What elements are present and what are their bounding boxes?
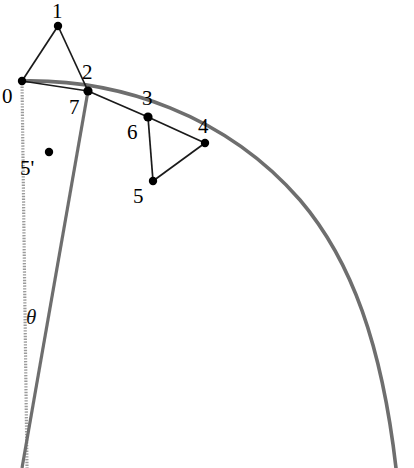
vertex-label-3: 3: [142, 88, 153, 109]
vertex-dot-3[interactable]: [143, 112, 152, 121]
vertex-dot-5[interactable]: [149, 177, 157, 185]
chord-4-5: [153, 143, 205, 181]
chord-0-1: [22, 26, 58, 81]
vertex-dot-1[interactable]: [54, 22, 62, 30]
vertex-label-2: 2: [82, 62, 93, 83]
vertex-dot-2[interactable]: [83, 86, 92, 95]
vertex-dot-5-prime[interactable]: [45, 148, 53, 156]
chord-5-3: [148, 117, 153, 181]
radius-dotted-left: [22, 81, 27, 468]
figure-drawing: [0, 0, 414, 468]
vertex-label-4: 4: [198, 116, 209, 137]
vertex-label-5: 5: [133, 186, 144, 207]
vertex-label-5-prime: 5': [20, 158, 34, 179]
vertex-label-6: 6: [127, 122, 138, 143]
vertex-dot-0[interactable]: [18, 77, 26, 85]
vertex-label-1: 1: [52, 1, 63, 22]
vertex-label-7: 7: [69, 97, 80, 118]
vertex-dot-4[interactable]: [201, 139, 209, 147]
vertex-label-0: 0: [2, 86, 13, 107]
figure-canvas: 0 1 2 7 3 6 4 5 5' θ: [0, 0, 414, 468]
chord-2-3: [88, 91, 148, 117]
angle-label-theta: θ: [26, 307, 36, 328]
radius-solid-right: [22, 91, 88, 468]
